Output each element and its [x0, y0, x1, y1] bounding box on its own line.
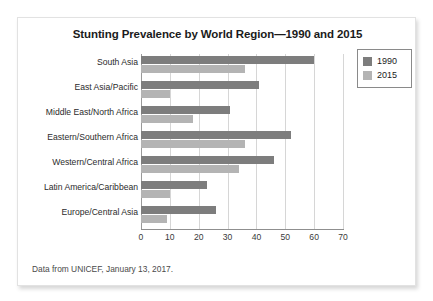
x-tick-label-30: 30 — [216, 232, 240, 242]
x-axis-tick-labels: 010203040506070 — [141, 232, 343, 246]
category-label: East Asia/Pacific — [26, 82, 138, 92]
bar-group — [141, 181, 343, 206]
bar-group — [141, 131, 343, 156]
bar-group — [141, 156, 343, 181]
chart-title: Stunting Prevalence by World Region—1990… — [18, 28, 417, 40]
legend-label-1990: 1990 — [377, 56, 397, 66]
bar-2015 — [141, 165, 239, 173]
plot-area — [141, 54, 343, 229]
category-axis-labels: South AsiaEast Asia/PacificMiddle East/N… — [26, 54, 138, 229]
category-label: Latin America/Caribbean — [26, 182, 138, 192]
bar-group — [141, 56, 343, 81]
x-tick-label-0: 0 — [129, 232, 153, 242]
category-label: Western/Central Africa — [26, 157, 138, 167]
gridline-70 — [343, 54, 344, 229]
legend-item-2015: 2015 — [363, 68, 406, 82]
category-label: Europe/Central Asia — [26, 207, 138, 217]
category-label: Middle East/North Africa — [26, 107, 138, 117]
bar-1990 — [141, 181, 207, 189]
bar-2015 — [141, 65, 245, 73]
bar-1990 — [141, 106, 230, 114]
bar-1990 — [141, 156, 274, 164]
legend-label-2015: 2015 — [377, 70, 397, 80]
bar-2015 — [141, 140, 245, 148]
x-tick-label-10: 10 — [158, 232, 182, 242]
bar-2015 — [141, 90, 170, 98]
bar-group — [141, 81, 343, 106]
bar-2015 — [141, 115, 193, 123]
bar-1990 — [141, 206, 216, 214]
legend-swatch-2015 — [363, 71, 372, 80]
bar-1990 — [141, 131, 291, 139]
bar-2015 — [141, 215, 167, 223]
bar-1990 — [141, 81, 259, 89]
bar-2015 — [141, 190, 170, 198]
bar-1990 — [141, 56, 314, 64]
bar-group — [141, 106, 343, 131]
legend-swatch-1990 — [363, 57, 372, 66]
legend-item-1990: 1990 — [363, 54, 406, 68]
x-tick-label-60: 60 — [302, 232, 326, 242]
bar-series-container — [141, 54, 343, 229]
x-tick-label-40: 40 — [244, 232, 268, 242]
bar-group — [141, 206, 343, 231]
category-label: Eastern/Southern Africa — [26, 132, 138, 142]
chart-card: Stunting Prevalence by World Region—1990… — [17, 17, 416, 286]
x-tick-label-70: 70 — [331, 232, 355, 242]
category-label: South Asia — [26, 57, 138, 67]
chart-caption: Data from UNICEF, January 13, 2017. — [32, 264, 173, 274]
x-tick-label-20: 20 — [187, 232, 211, 242]
x-axis-line — [141, 229, 344, 230]
chart-legend: 1990 2015 — [357, 49, 412, 88]
x-tick-label-50: 50 — [273, 232, 297, 242]
